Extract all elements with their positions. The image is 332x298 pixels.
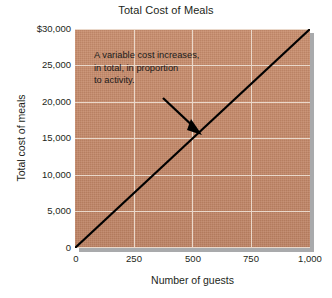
x-axis-tick-labels: 0 250 500 750 1,000 <box>0 0 332 298</box>
x-tick-label: 1,000 <box>280 253 332 264</box>
x-axis-title: Number of guests <box>75 274 310 286</box>
x-tick-label: 500 <box>163 253 223 264</box>
chart-figure: Total Cost of Meals A variable cost incr… <box>0 0 332 298</box>
y-axis-title: Total cost of meals <box>15 68 27 208</box>
x-tick-label: 250 <box>104 253 164 264</box>
x-tick-label: 0 <box>46 253 106 264</box>
x-tick-label: 750 <box>221 253 281 264</box>
